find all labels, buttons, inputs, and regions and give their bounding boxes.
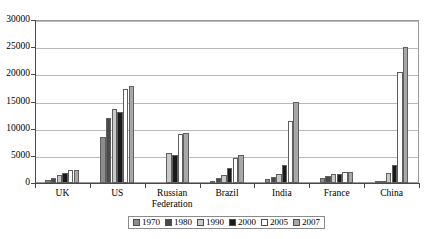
bar	[342, 172, 347, 183]
bar	[221, 175, 226, 183]
x-category-label: Brazil	[200, 188, 255, 199]
legend-swatch-icon	[133, 219, 140, 226]
bar	[392, 165, 397, 183]
legend-label: 1980	[174, 218, 192, 227]
legend-item: 2007	[293, 218, 320, 227]
bar	[403, 47, 408, 183]
bar	[282, 165, 287, 183]
y-tick-label: 0	[25, 178, 30, 188]
x-tick-mark	[35, 184, 36, 188]
bars-layer	[35, 20, 419, 183]
bar	[129, 86, 134, 183]
bar	[348, 172, 353, 183]
bar	[233, 158, 238, 183]
legend-label: 1970	[142, 218, 160, 227]
bar	[74, 170, 79, 183]
bar	[325, 176, 330, 183]
bar	[288, 121, 293, 183]
bar	[62, 173, 67, 183]
bar	[57, 175, 62, 183]
y-tick-label: 5000	[11, 151, 30, 161]
bar	[100, 137, 105, 183]
bar	[183, 133, 188, 183]
bar	[397, 72, 402, 183]
bar	[68, 170, 73, 183]
legend-item: 1990	[197, 218, 224, 227]
legend-label: 2005	[270, 218, 288, 227]
bar	[276, 174, 281, 184]
y-tick-label: 20000	[6, 69, 30, 79]
legend-item: 1970	[133, 218, 160, 227]
bar	[106, 118, 111, 183]
y-tick-label: 10000	[6, 124, 30, 134]
bar	[227, 168, 232, 183]
x-tick-mark	[419, 184, 420, 188]
bar	[166, 153, 171, 183]
legend-label: 2000	[238, 218, 256, 227]
bar	[123, 89, 128, 183]
legend-item: 2005	[261, 218, 288, 227]
x-category-label: India	[254, 188, 309, 199]
legend-swatch-icon	[293, 219, 300, 226]
bar	[112, 109, 117, 183]
x-category-label: France	[309, 188, 364, 199]
x-category-label: US	[90, 188, 145, 199]
legend-label: 2007	[302, 218, 320, 227]
legend-swatch-icon	[229, 219, 236, 226]
chart-legend: 197019801990200020052007	[128, 216, 325, 229]
legend-item: 1980	[165, 218, 192, 227]
x-axis-line	[35, 183, 420, 184]
legend-swatch-icon	[165, 219, 172, 226]
y-tick-label: 25000	[6, 42, 30, 52]
x-category-label: Russian Federation	[145, 188, 200, 209]
x-category-label: UK	[35, 188, 90, 199]
bar	[178, 134, 183, 183]
legend-swatch-icon	[261, 219, 268, 226]
bar	[386, 173, 391, 183]
bar	[117, 112, 122, 183]
y-tick-label: 30000	[6, 15, 30, 25]
bar	[331, 174, 336, 183]
legend-label: 1990	[206, 218, 224, 227]
bar	[293, 102, 298, 183]
bar	[238, 155, 243, 183]
y-tick-label: 15000	[6, 97, 30, 107]
x-category-label: China	[364, 188, 419, 199]
bar	[337, 174, 342, 184]
legend-swatch-icon	[197, 219, 204, 226]
bar	[172, 155, 177, 183]
bar-chart: 050001000015000200002500030000 UKUSRussi…	[0, 0, 429, 239]
legend-item: 2000	[229, 218, 256, 227]
